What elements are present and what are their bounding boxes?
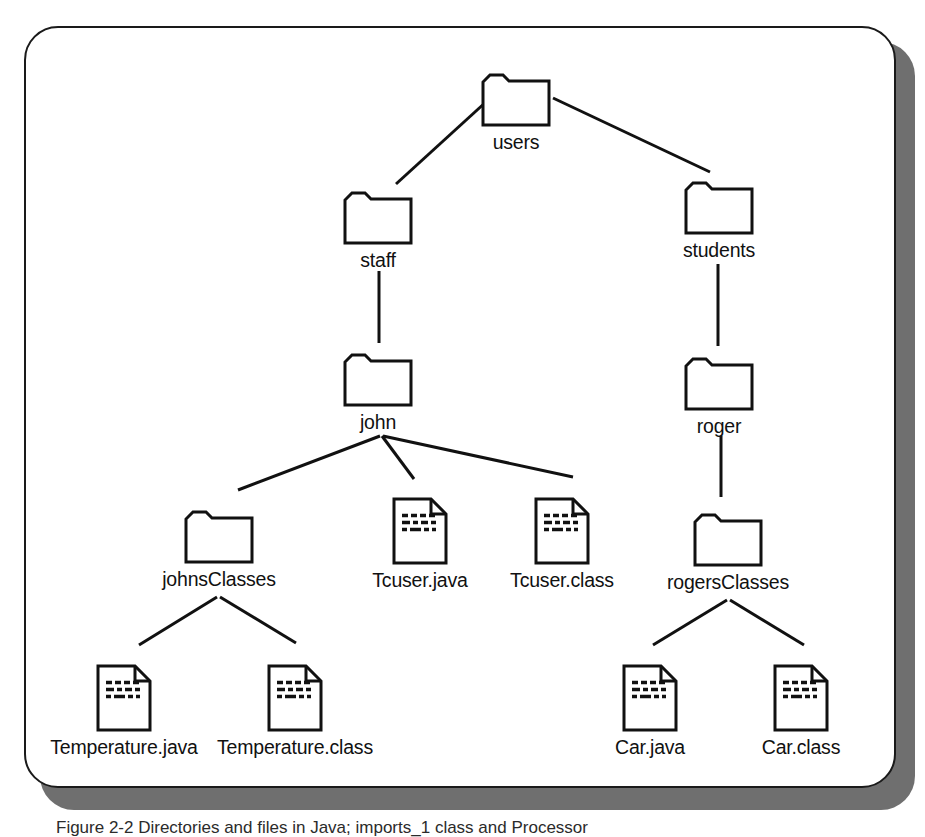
- tree-node-label: students: [624, 239, 814, 262]
- figure-caption: Figure 2-2 Directories and files in Java…: [56, 818, 876, 837]
- folder-icon: [124, 505, 314, 565]
- tree-edge: [382, 436, 414, 479]
- tree-node-johnsClasses[interactable]: johnsClasses: [124, 505, 314, 591]
- tree-node-label: Car.class: [706, 736, 896, 759]
- figure-frame: usersstaffstudentsjohnrogerjohnsClassesT…: [0, 0, 925, 837]
- tree-node-label: users: [421, 131, 611, 154]
- tree-edge: [238, 436, 380, 490]
- tree-node-label: john: [283, 411, 473, 434]
- tree-node-Tcuser-class[interactable]: Tcuser.class: [467, 496, 657, 592]
- tree-node-Temperature-class[interactable]: Temperature.class: [200, 663, 390, 759]
- directory-tree-diagram: usersstaffstudentsjohnrogerjohnsClassesT…: [0, 0, 925, 800]
- tree-node-rogersClasses[interactable]: rogersClasses: [633, 508, 823, 594]
- tree-edge: [220, 597, 296, 643]
- file-icon: [200, 663, 390, 733]
- tree-edge: [653, 600, 727, 645]
- tree-node-roger[interactable]: roger: [624, 352, 814, 438]
- tree-node-label: Temperature.java: [29, 736, 219, 759]
- file-icon: [467, 496, 657, 566]
- tree-node-staff[interactable]: staff: [283, 186, 473, 272]
- tree-node-label: rogersClasses: [633, 571, 823, 594]
- tree-node-label: Tcuser.class: [467, 569, 657, 592]
- folder-icon: [283, 348, 473, 408]
- tree-node-Car-class[interactable]: Car.class: [706, 663, 896, 759]
- tree-edge: [139, 597, 217, 645]
- tree-node-users[interactable]: users: [421, 68, 611, 154]
- folder-icon: [624, 176, 814, 236]
- tree-node-label: johnsClasses: [124, 568, 314, 591]
- folder-icon: [633, 508, 823, 568]
- file-icon: [29, 663, 219, 733]
- tree-edge: [383, 436, 573, 477]
- folder-icon: [283, 186, 473, 246]
- tree-node-students[interactable]: students: [624, 176, 814, 262]
- tree-node-Temperature-java[interactable]: Temperature.java: [29, 663, 219, 759]
- tree-edge: [730, 600, 804, 645]
- tree-node-label: roger: [624, 415, 814, 438]
- tree-node-label: staff: [283, 249, 473, 272]
- tree-node-label: Temperature.class: [200, 736, 390, 759]
- folder-icon: [421, 68, 611, 128]
- tree-node-john[interactable]: john: [283, 348, 473, 434]
- folder-icon: [624, 352, 814, 412]
- file-icon: [706, 663, 896, 733]
